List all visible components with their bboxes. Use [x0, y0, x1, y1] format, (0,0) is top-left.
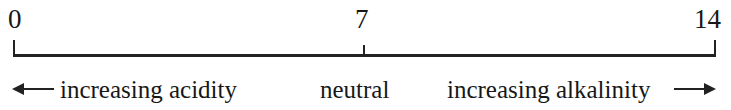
axis-tick-14	[714, 40, 716, 57]
caption-neutral: neutral	[320, 74, 389, 106]
arrow-right-icon	[674, 88, 718, 90]
arrow-right-head	[704, 83, 716, 95]
ph-scale-diagram: 0 7 14 increasing acidity neutral increa…	[0, 0, 731, 110]
axis-tick-label-0: 0	[8, 6, 22, 33]
caption-row: increasing acidity neutral increasing al…	[0, 74, 731, 106]
arrow-right-shaft	[674, 88, 706, 90]
axis-tick-0	[13, 40, 15, 57]
axis-tick-label-7: 7	[355, 6, 369, 33]
axis-tick-7	[363, 45, 365, 57]
axis-tick-label-14: 14	[694, 6, 721, 33]
caption-increasing-acidity: increasing acidity	[60, 74, 237, 106]
caption-increasing-alkalinity: increasing alkalinity	[447, 74, 650, 106]
arrow-left-icon	[12, 88, 54, 90]
arrow-left-shaft	[22, 88, 54, 90]
